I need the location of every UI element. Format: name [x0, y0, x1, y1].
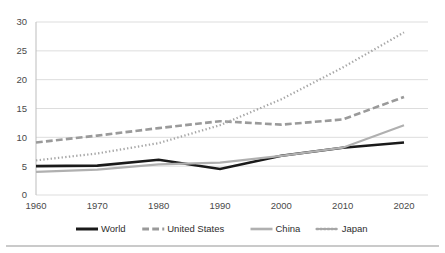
x-tick-label-1990: 1990 — [209, 200, 230, 211]
x-tick-label-1970: 1970 — [87, 200, 108, 211]
legend-label-japan: Japan — [342, 223, 368, 234]
x-tick-label-2000: 2000 — [271, 200, 292, 211]
x-tick-label-2010: 2010 — [332, 200, 353, 211]
y-tick-label-10: 10 — [16, 132, 27, 143]
legend-label-united-states: United States — [167, 223, 224, 234]
x-tick-label-1980: 1980 — [148, 200, 169, 211]
chart-canvas: 051015202530 196019701980199020002010202… — [0, 0, 445, 253]
x-tick-label-2020: 2020 — [393, 200, 414, 211]
legend-label-china: China — [276, 223, 302, 234]
y-tick-label-25: 25 — [16, 45, 27, 56]
legend-label-world: World — [101, 223, 126, 234]
y-tick-label-5: 5 — [22, 161, 27, 172]
y-tick-label-15: 15 — [16, 103, 27, 114]
y-tick-label-30: 30 — [16, 16, 27, 27]
y-tick-label-20: 20 — [16, 74, 27, 85]
line-chart: 051015202530 196019701980199020002010202… — [0, 0, 445, 253]
x-tick-label-1960: 1960 — [25, 200, 46, 211]
y-tick-label-0: 0 — [22, 189, 27, 200]
chart-background — [0, 0, 445, 253]
